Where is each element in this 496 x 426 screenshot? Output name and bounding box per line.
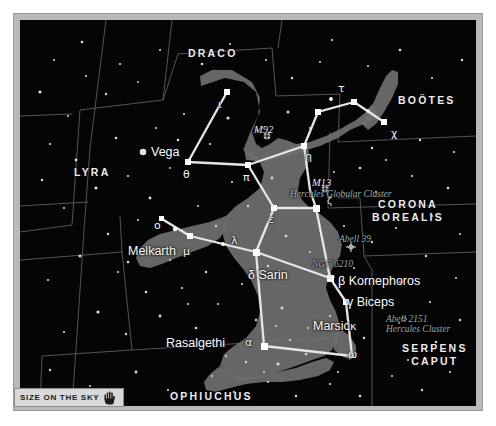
galaxy-cluster-marker-abell2151	[398, 317, 407, 324]
sky-map[interactable]: DRACO BOÖTES LYRA CORONA BOREALIS SERPEN…	[20, 20, 476, 406]
size-on-the-sky-banner[interactable]: SIZE ON THE SKY	[14, 388, 124, 407]
open-hand-icon	[103, 391, 116, 405]
sky-graphics	[20, 20, 476, 406]
size-on-the-sky-label: SIZE ON THE SKY	[20, 393, 99, 402]
star-vega-dot	[140, 149, 147, 156]
globular-cluster-marker-m13	[321, 185, 329, 193]
planetary-nebula-marker-abell39	[346, 242, 356, 252]
globular-cluster-marker-m92	[263, 132, 271, 140]
star-chart-page: DRACO BOÖTES LYRA CORONA BOREALIS SERPEN…	[0, 0, 496, 426]
